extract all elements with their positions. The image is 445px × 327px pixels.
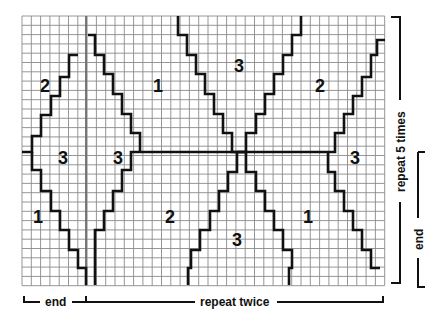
left-diamond-right-arm-top bbox=[88, 35, 140, 152]
region-number: 2 bbox=[315, 76, 325, 96]
bottom-repeat-label: repeat twice bbox=[200, 295, 270, 309]
center-v-left-arm bbox=[178, 16, 237, 152]
region-number: 3 bbox=[232, 230, 242, 250]
bottom-repeat-bracket: repeat twice bbox=[86, 295, 383, 309]
region-number: 1 bbox=[153, 76, 163, 96]
region-number: 3 bbox=[350, 148, 360, 168]
region-number: 3 bbox=[234, 56, 244, 76]
region-number: 3 bbox=[58, 148, 68, 168]
region-number: 1 bbox=[303, 207, 313, 227]
knitting-chart: 21323331213 end repeat twice repeat 5 ti… bbox=[0, 0, 445, 327]
region-number: 2 bbox=[165, 207, 175, 227]
region-number: 1 bbox=[33, 207, 43, 227]
stepped-outline-paths bbox=[22, 16, 385, 285]
right-diamond-lower bbox=[328, 152, 380, 268]
region-number: 2 bbox=[40, 76, 50, 96]
right-repeat-label: repeat 5 times bbox=[394, 111, 408, 192]
region-number: 3 bbox=[113, 148, 123, 168]
bottom-end-label: end bbox=[45, 295, 66, 309]
right-end-bracket: end bbox=[412, 152, 426, 287]
center-inv-v-left-arm bbox=[188, 152, 237, 285]
right-end-label: end bbox=[412, 229, 426, 250]
bottom-end-bracket: end bbox=[24, 295, 86, 309]
right-repeat-bracket: repeat 5 times bbox=[391, 17, 408, 283]
